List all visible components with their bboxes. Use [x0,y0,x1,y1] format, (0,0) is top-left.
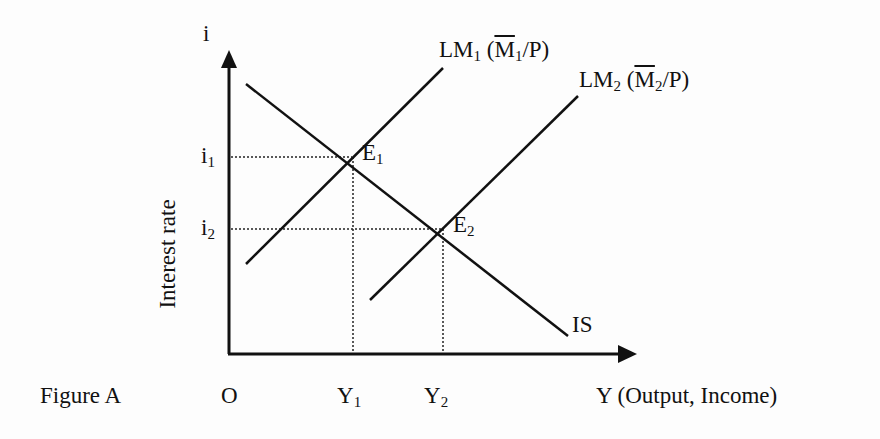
tick-i1: i1 [201,144,215,170]
is-curve [246,84,568,336]
lm2-curve [370,96,578,300]
lm1-curve [246,68,443,264]
point-e2-label: E2 [453,213,475,239]
diagram-canvas [0,0,880,439]
origin-label: O [221,384,238,407]
y-axis-title: Interest rate [155,199,181,308]
y-axis-symbol: i [203,22,209,45]
tick-y2: Y2 [424,384,448,410]
is-label: IS [572,313,592,336]
lm1-label: LM1 (M1/P) [439,38,549,64]
figure-caption: Figure A [40,384,121,407]
tick-i2: i2 [201,216,215,242]
lm2-label: LM2 (M2/P) [579,68,689,94]
y-axis-arrow-icon [221,50,237,68]
x-axis-arrow-icon [618,345,637,363]
tick-y1: Y1 [337,384,361,410]
x-axis-title: Y (Output, Income) [596,384,777,407]
is-lm-diagram: i Interest rate i1 i2 E1 E2 LM1 (M1/P) L… [0,0,880,439]
point-e1-label: E1 [362,141,384,167]
